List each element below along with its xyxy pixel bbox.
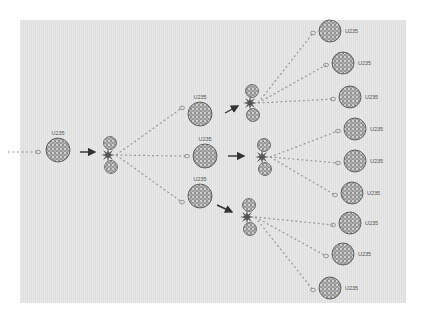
nucleus-label: U235 bbox=[345, 285, 358, 291]
u235-nucleus: U235 bbox=[341, 182, 380, 204]
fission-fragment bbox=[104, 137, 117, 150]
fission-event bbox=[243, 85, 260, 122]
u235-nucleus: U235 bbox=[339, 86, 378, 108]
fission-event bbox=[255, 139, 272, 176]
fission-fragment bbox=[244, 223, 257, 236]
u235-nucleus: U235 bbox=[339, 212, 378, 234]
arrow-icon bbox=[217, 205, 232, 212]
fission-fragment bbox=[243, 199, 256, 212]
u235-nucleus: U235 bbox=[344, 118, 383, 140]
nucleus-label: U235 bbox=[358, 60, 371, 66]
neutron-trail bbox=[270, 157, 338, 163]
u235-nucleus: U235 bbox=[344, 150, 383, 172]
neutron-trail bbox=[258, 33, 313, 103]
nucleus-label: U235 bbox=[345, 28, 358, 34]
neutron-trail bbox=[255, 217, 313, 290]
u235-nucleus: U235 bbox=[193, 136, 217, 168]
fission-flash-icon bbox=[255, 150, 269, 164]
nucleus-label: U235 bbox=[365, 220, 378, 226]
fission-fragment bbox=[105, 161, 118, 174]
nucleus-label: U235 bbox=[193, 94, 206, 100]
reaction-arrows bbox=[80, 106, 244, 212]
nucleus-label: U235 bbox=[193, 176, 206, 182]
fission-fragment bbox=[259, 163, 272, 176]
u235-nucleus: U235 bbox=[319, 20, 358, 42]
neutron-trail bbox=[116, 108, 182, 155]
neutron-trail bbox=[270, 157, 335, 195]
fission-fragment bbox=[247, 109, 260, 122]
u235-nucleus: U235 bbox=[188, 94, 212, 126]
fission-flash-icon bbox=[243, 96, 257, 110]
fission-chain-diagram: U235U235U235U235U235U235U235U235U235U235… bbox=[0, 0, 421, 319]
arrow-icon bbox=[225, 106, 238, 113]
fission-event bbox=[240, 199, 257, 236]
neutron-trail bbox=[255, 217, 326, 256]
u235-nucleus: U235 bbox=[332, 52, 371, 74]
fission-events bbox=[101, 85, 272, 236]
neutron-trail bbox=[116, 155, 187, 156]
nucleus-label: U235 bbox=[198, 136, 211, 142]
u235-nucleus: U235 bbox=[188, 176, 212, 208]
fission-event bbox=[101, 137, 118, 174]
neutron-trail bbox=[258, 99, 333, 103]
nucleus-label: U235 bbox=[367, 190, 380, 196]
fission-fragment bbox=[246, 85, 259, 98]
neutron-trail bbox=[116, 155, 182, 202]
u235-nucleus: U235 bbox=[319, 277, 358, 299]
nucleus-label: U235 bbox=[51, 130, 64, 136]
nucleus-label: U235 bbox=[365, 94, 378, 100]
fission-fragment bbox=[258, 139, 271, 152]
nucleus-label: U235 bbox=[370, 158, 383, 164]
uranium-nuclei: U235U235U235U235U235U235U235U235U235U235… bbox=[46, 20, 383, 299]
neutron-trail bbox=[270, 131, 338, 157]
nucleus-label: U235 bbox=[358, 251, 371, 257]
neutron-trail bbox=[258, 65, 326, 103]
u235-nucleus: U235 bbox=[46, 130, 70, 162]
neutron-icon bbox=[180, 106, 185, 110]
u235-nucleus: U235 bbox=[332, 243, 371, 265]
fission-flash-icon bbox=[240, 210, 254, 224]
nucleus-label: U235 bbox=[370, 126, 383, 132]
fission-flash-icon bbox=[101, 148, 115, 162]
